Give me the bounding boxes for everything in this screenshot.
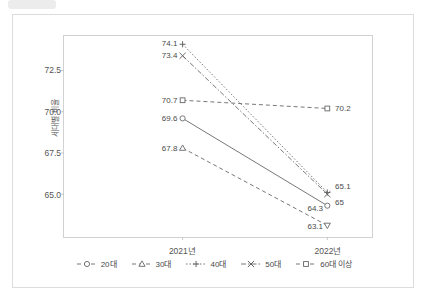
data-label: 74.1 bbox=[162, 40, 178, 48]
legend-marker-triangle-icon bbox=[131, 259, 153, 269]
legend-label: 60대 이상 bbox=[320, 258, 352, 269]
series-line-1 bbox=[183, 148, 328, 225]
legend-item-4[interactable]: 60대 이상 bbox=[295, 258, 352, 269]
legend-label: 50대 bbox=[265, 258, 281, 269]
legend-item-3[interactable]: 50대 bbox=[240, 258, 281, 269]
top-left-badge bbox=[8, 0, 56, 9]
data-point-marker-square bbox=[180, 98, 185, 103]
data-label: 65 bbox=[335, 199, 344, 207]
data-point-marker-square bbox=[325, 106, 330, 111]
data-point-marker-circle bbox=[180, 116, 185, 121]
data-label: 67.8 bbox=[162, 145, 178, 153]
series-line-3 bbox=[183, 56, 328, 194]
legend-item-0[interactable]: 20대 bbox=[76, 258, 117, 269]
y-axis-tick-labels: 65.067.570.072.5 bbox=[31, 35, 61, 238]
legend-label: 40대 bbox=[210, 258, 226, 269]
data-label: 70.7 bbox=[162, 97, 178, 105]
x-tick-label: 2021년 bbox=[169, 244, 196, 256]
data-point-marker-circle bbox=[84, 261, 89, 266]
legend-marker-plus-icon bbox=[185, 259, 207, 269]
figure-card: 세대별 비율 65.067.570.072.5 69.664.367.863.1… bbox=[12, 14, 414, 288]
legend-item-1[interactable]: 30대 bbox=[131, 258, 172, 269]
y-tick-label: 67.5 bbox=[35, 149, 61, 158]
data-point-marker-triangle bbox=[180, 145, 186, 150]
data-label: 70.2 bbox=[335, 105, 351, 113]
y-tick-label: 72.5 bbox=[35, 66, 61, 75]
data-point-marker-cross bbox=[180, 53, 186, 59]
data-point-marker-triangle bbox=[324, 223, 330, 228]
legend-marker-cross-icon bbox=[240, 259, 262, 269]
data-point-marker-square bbox=[304, 261, 309, 266]
x-tick-label: 2022년 bbox=[315, 244, 342, 256]
data-label: 65.1 bbox=[335, 183, 351, 191]
data-point-marker-plus bbox=[193, 260, 199, 266]
series-line-2 bbox=[183, 44, 328, 192]
plot-area: 69.664.367.863.174.165.173.46570.770.2 bbox=[63, 35, 373, 238]
series-line-0 bbox=[183, 118, 328, 205]
data-point-marker-plus bbox=[180, 41, 186, 47]
data-label: 64.3 bbox=[307, 205, 323, 213]
legend-label: 20대 bbox=[101, 258, 117, 269]
chart-svg bbox=[64, 36, 372, 237]
data-label: 73.4 bbox=[162, 52, 178, 60]
chart-legend: 20대30대40대50대60대 이상 bbox=[13, 258, 415, 269]
series-line-4 bbox=[183, 100, 328, 108]
legend-item-2[interactable]: 40대 bbox=[185, 258, 226, 269]
data-label: 69.6 bbox=[162, 115, 178, 123]
legend-marker-circle-icon bbox=[76, 259, 98, 269]
data-point-marker-circle bbox=[325, 203, 330, 208]
y-tick-label: 65.0 bbox=[35, 191, 61, 200]
legend-label: 30대 bbox=[156, 258, 172, 269]
legend-marker-square-icon bbox=[295, 259, 317, 269]
x-axis-tick-labels: 2021년2022년 bbox=[63, 241, 373, 255]
y-tick-label: 70.0 bbox=[35, 108, 61, 117]
data-label: 63.1 bbox=[307, 223, 323, 231]
